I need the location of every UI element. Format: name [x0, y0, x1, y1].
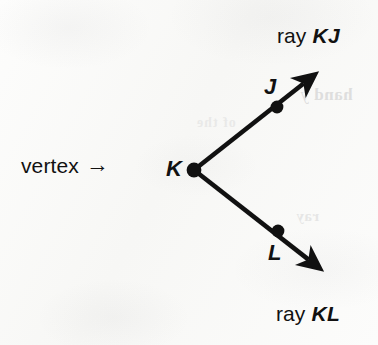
- point-label-j: J: [264, 76, 277, 98]
- right-arrow-icon: →: [86, 153, 109, 176]
- ray-kl-label-prefix: ray: [276, 302, 305, 325]
- point-dot-j: [271, 101, 284, 114]
- vertex-callout: vertex →: [21, 154, 109, 177]
- point-dot-l: [272, 225, 285, 238]
- ray-kl-label-name: KL: [311, 302, 340, 325]
- vertex-callout-text: vertex: [21, 155, 79, 176]
- ray-kj-line: [194, 83, 304, 170]
- ray-kj-label-prefix: ray: [277, 24, 306, 47]
- figure-canvas: hand y ray of the ray KJ ray KL vertex: [0, 0, 378, 345]
- point-label-l: L: [268, 242, 282, 264]
- ray-kl-line: [194, 170, 309, 260]
- ray-kj-label: ray KJ: [277, 25, 340, 46]
- point-dot-k: [187, 163, 202, 178]
- point-label-k: K: [166, 158, 182, 180]
- ray-kj-label-name: KJ: [312, 24, 339, 47]
- ray-kl-label: ray KL: [276, 303, 340, 324]
